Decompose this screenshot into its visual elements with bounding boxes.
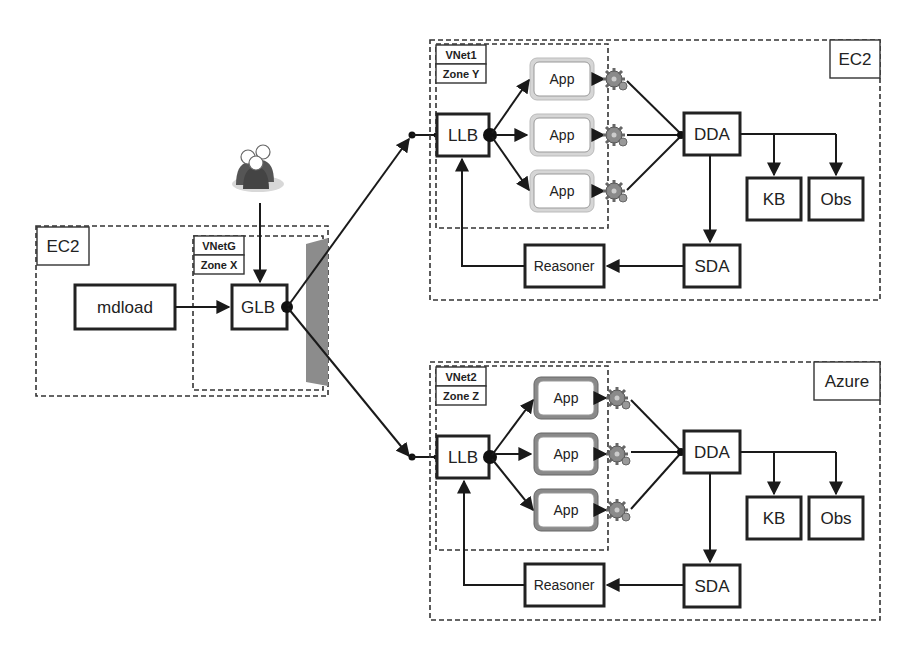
architecture-diagram: EC2 VNetG Zone X mdload GLB	[0, 0, 912, 647]
gear-icon	[606, 387, 630, 409]
zone-z-label: Zone Z	[443, 390, 479, 402]
app-node[interactable]: App	[530, 114, 594, 156]
reasoner-azure-label: Reasoner	[534, 577, 595, 593]
app-node[interactable]: App	[530, 170, 594, 212]
vnet2-label: VNet2	[445, 371, 476, 383]
app-node[interactable]: App	[534, 433, 598, 475]
azure-title: Azure	[825, 372, 869, 391]
zone-x-label: Zone X	[201, 259, 238, 271]
obs-top-label: Obs	[820, 190, 851, 209]
llb2-label: LLB	[448, 448, 478, 467]
glb-label: GLB	[241, 298, 275, 317]
gear-icon	[603, 180, 627, 202]
zone-y-label: Zone Y	[443, 68, 480, 80]
svg-text:App: App	[554, 446, 579, 462]
users-group-icon	[232, 145, 284, 192]
mdload-label: mdload	[97, 298, 153, 317]
ec2-left-region: EC2 VNetG Zone X mdload GLB	[36, 226, 328, 396]
kb-azure-label: KB	[763, 509, 786, 528]
reasoner-top-label: Reasoner	[534, 258, 595, 274]
glb-to-llb1-arrow	[288, 139, 409, 306]
firewall-panel-icon	[306, 238, 328, 386]
app-node[interactable]: App	[530, 58, 594, 100]
vnetg-label: VNetG	[202, 240, 236, 252]
vnet1-label: VNet1	[445, 49, 476, 61]
svg-text:App: App	[554, 502, 579, 518]
svg-text:App: App	[550, 127, 575, 143]
svg-text:App: App	[550, 71, 575, 87]
llb1-label: LLB	[448, 126, 478, 145]
app-node[interactable]: App	[534, 377, 598, 419]
svg-text:App: App	[554, 390, 579, 406]
app-node[interactable]: App	[534, 489, 598, 531]
kb-top-label: KB	[763, 190, 786, 209]
sda-top-label: SDA	[695, 257, 731, 276]
azure-region: Azure VNet2 Zone Z LLB App App App	[430, 362, 880, 620]
svg-text:App: App	[550, 183, 575, 199]
sda-azure-label: SDA	[695, 577, 731, 596]
ec2-top-title: EC2	[838, 50, 871, 69]
dda-top-label: DDA	[694, 125, 731, 144]
dda-azure-label: DDA	[694, 443, 731, 462]
gear-icon	[606, 499, 630, 521]
gear-icon	[606, 443, 630, 465]
obs-azure-label: Obs	[820, 509, 851, 528]
gear-icon	[603, 124, 627, 146]
ec2-left-title: EC2	[46, 237, 79, 256]
ec2-top-region: EC2 VNet1 Zone Y LLB App App App	[430, 40, 880, 300]
gear-icon	[603, 68, 627, 90]
